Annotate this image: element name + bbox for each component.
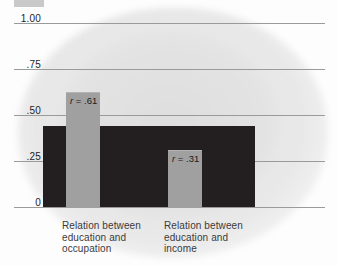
bar-value-label-occupation: r = .61 <box>70 95 97 106</box>
gridline-1-00 <box>14 23 325 24</box>
bar-value-label-occupation-number: = .61 <box>73 95 97 106</box>
bar-value-label-income-number: = .31 <box>175 153 199 164</box>
bar-value-label-income: r = .31 <box>172 153 199 164</box>
ytick-label-1-00: 1.00 <box>0 13 41 24</box>
gridline-0-50 <box>14 115 325 116</box>
gridline-0-75 <box>14 69 325 70</box>
category-label-education-income: Relation between education and income <box>164 220 264 255</box>
category-label-education-occupation: Relation between education and occupatio… <box>62 220 162 255</box>
ytick-label-0: 0 <box>0 197 41 208</box>
plot-area: 1.00 .75 .50 .25 0 r = .61 r = .31 Relat… <box>0 0 338 266</box>
ytick-label-0-50: .50 <box>0 105 41 116</box>
correlation-bar-chart: 1.00 .75 .50 .25 0 r = .61 r = .31 Relat… <box>0 0 338 266</box>
bar-education-occupation[interactable] <box>66 92 100 208</box>
ytick-label-0-75: .75 <box>0 59 41 70</box>
ytick-label-0-25: .25 <box>0 151 41 162</box>
